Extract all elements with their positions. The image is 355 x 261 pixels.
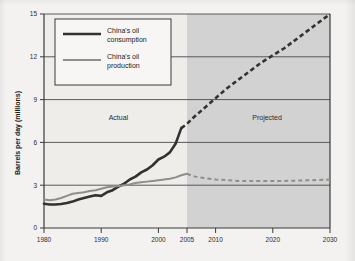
y-tick-label: 9 — [33, 96, 37, 103]
legend-label-production-line2: production — [107, 62, 140, 70]
y-tick-label: 15 — [30, 10, 38, 17]
x-tick-label: 1990 — [94, 236, 109, 243]
oil-chart: 03691215 1980199020002005201020202030 Ba… — [0, 0, 355, 261]
legend-label-consumption-line1: China's oil — [107, 27, 140, 34]
x-axis-ticks: 1980199020002005201020202030 — [37, 228, 338, 243]
legend: China's oil consumption China's oil prod… — [55, 19, 171, 85]
x-tick-label: 2030 — [323, 236, 338, 243]
x-tick-label: 2010 — [208, 236, 223, 243]
chart-page: 03691215 1980199020002005201020202030 Ba… — [0, 0, 355, 261]
x-tick-label: 2000 — [151, 236, 166, 243]
y-tick-label: 6 — [33, 139, 37, 146]
y-tick-label: 3 — [33, 182, 37, 189]
legend-label-consumption-line2: consumption — [107, 36, 147, 44]
y-axis-title: Barrels per day (millions) — [14, 91, 22, 175]
actual-region-label: Actual — [109, 114, 129, 121]
y-axis-ticks: 03691215 — [30, 10, 44, 231]
x-tick-label: 2005 — [180, 236, 195, 243]
projected-region-label: Projected — [252, 114, 282, 122]
y-tick-label: 0 — [33, 224, 37, 231]
legend-label-production-line1: China's oil — [107, 53, 140, 60]
y-tick-label: 12 — [30, 53, 38, 60]
x-tick-label: 2020 — [266, 236, 281, 243]
projected-shaded-region — [187, 14, 330, 228]
x-tick-label: 1980 — [37, 236, 52, 243]
